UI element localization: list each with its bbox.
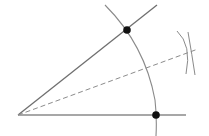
angle-bisector-diagram	[0, 0, 209, 136]
upper-intersection-point	[123, 26, 131, 34]
construction-arc-small-1	[177, 31, 188, 74]
bisector-line	[18, 49, 198, 115]
upper-ray	[18, 5, 157, 115]
construction-arc-large	[105, 5, 156, 136]
construction-arc-small-2	[188, 32, 195, 75]
diagram-canvas	[0, 0, 209, 136]
lower-intersection-point	[152, 111, 160, 119]
